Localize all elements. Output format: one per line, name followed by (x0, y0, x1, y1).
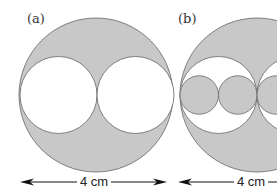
panel-a-width-label: 4 cm (77, 174, 111, 188)
diagram-canvas (0, 0, 277, 188)
inner-circle-a-right (97, 57, 174, 134)
panel-b-figure (180, 18, 277, 172)
panel-a-figure (19, 18, 174, 172)
panel-a-label: (a) (27, 11, 45, 26)
small-circle-b-1 (180, 76, 219, 115)
panel-b-label: (b) (178, 11, 196, 26)
inner-circle-a-left (20, 57, 97, 134)
panel-b-width-label: 4 cm (234, 174, 268, 188)
small-circle-b-2 (219, 76, 258, 115)
